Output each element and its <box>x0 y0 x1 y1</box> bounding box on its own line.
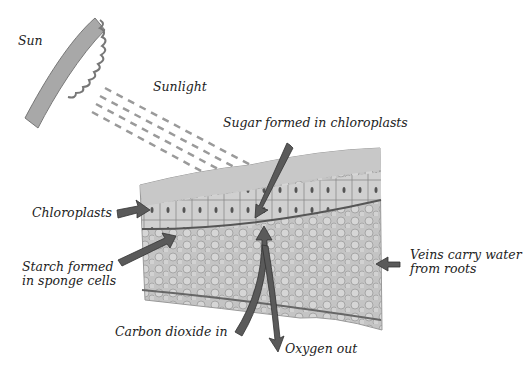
label-sun: Sun <box>18 34 43 48</box>
label-carbon-dioxide: Carbon dioxide in <box>115 325 228 339</box>
label-veins-line2: from roots <box>410 262 476 276</box>
leaf-diagram-art <box>0 0 532 372</box>
label-sugar: Sugar formed in chloroplasts <box>223 116 408 130</box>
label-veins-line1: Veins carry water <box>410 248 522 262</box>
label-starch-line1: Starch formed <box>22 260 113 274</box>
label-chloroplasts: Chloroplasts <box>32 206 112 220</box>
label-starch-line2: in sponge cells <box>22 274 116 288</box>
label-sunlight: Sunlight <box>153 80 207 94</box>
label-oxygen: Oxygen out <box>285 342 357 356</box>
